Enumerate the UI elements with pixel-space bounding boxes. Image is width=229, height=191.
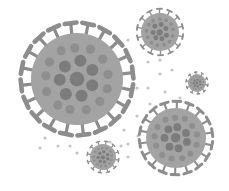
- virus-spot: [199, 76, 201, 78]
- small-right-virus: [186, 72, 208, 94]
- spike-cap: [168, 52, 172, 54]
- spike-cap: [137, 25, 138, 30]
- virus-spot: [65, 105, 74, 114]
- particle-dot: [146, 86, 149, 89]
- spike-cap: [123, 101, 129, 111]
- virus-spot: [106, 153, 109, 156]
- virus-spot: [196, 79, 198, 81]
- virus-spot: [102, 150, 105, 153]
- spike-cap: [159, 171, 166, 174]
- virus-spot: [194, 85, 196, 87]
- virus-spot: [104, 165, 107, 168]
- particle-dot: [38, 146, 41, 149]
- virus-spot: [151, 19, 155, 23]
- virus-spot: [196, 76, 198, 78]
- particle-dot: [163, 90, 166, 93]
- virus-spot: [194, 132, 200, 138]
- virus-spot: [171, 133, 181, 143]
- spike-cap: [186, 103, 193, 106]
- virus-spot: [165, 125, 173, 133]
- virus-spot: [171, 34, 175, 38]
- virus-spot: [150, 41, 154, 45]
- virus-spot: [169, 155, 175, 161]
- virus-spot: [93, 159, 96, 162]
- virus-spot: [97, 148, 100, 151]
- virus-spot: [96, 156, 99, 159]
- virus-spot: [101, 155, 105, 159]
- virus-spot: [45, 57, 54, 66]
- virus-spot: [168, 40, 172, 44]
- spike-cap: [44, 125, 54, 131]
- virus-spot: [199, 83, 201, 85]
- spike-cap: [182, 24, 183, 29]
- virus-spot: [54, 74, 66, 86]
- spike-cap: [143, 116, 147, 123]
- spike-cap: [126, 50, 131, 61]
- virus-spot: [100, 165, 103, 168]
- virus-spot: [98, 152, 101, 155]
- particle-dot: [158, 58, 161, 61]
- virus-spot: [157, 29, 163, 35]
- spike-cap: [87, 160, 88, 163]
- large-virus: [21, 23, 134, 136]
- virus-spot: [183, 138, 191, 146]
- virus-spot: [147, 23, 151, 27]
- virus-spot: [101, 147, 104, 150]
- spike-cap: [21, 62, 23, 74]
- virus-spot: [164, 33, 169, 38]
- virus-spot: [191, 79, 193, 81]
- virus-spot: [95, 97, 104, 106]
- spike-cap: [132, 67, 133, 79]
- virus-spot: [109, 150, 112, 153]
- virus-spot: [202, 81, 204, 83]
- virus-spot: [159, 36, 164, 41]
- virus-spot: [182, 129, 190, 137]
- particle-dot: [158, 72, 161, 75]
- virus-spot: [193, 76, 195, 78]
- virus-spot: [110, 159, 113, 162]
- spike-cap: [95, 128, 106, 133]
- spike-cap: [60, 133, 72, 135]
- spike-cap: [104, 141, 107, 142]
- spike-cap: [182, 34, 183, 39]
- virus-spot: [162, 117, 168, 123]
- virus-spot: [173, 123, 181, 131]
- spike-cap: [87, 152, 88, 155]
- spike-cap: [117, 150, 118, 153]
- virus-spot: [155, 43, 159, 47]
- virus-spot: [197, 85, 199, 87]
- particle-dot: [126, 38, 129, 41]
- spike-cap: [187, 86, 188, 88]
- virus-spot: [59, 61, 71, 73]
- virus-spot: [41, 71, 50, 80]
- virus-spot: [86, 45, 95, 54]
- virus-spot: [202, 84, 204, 86]
- virus-spot: [190, 85, 192, 87]
- virus-spot: [162, 43, 166, 47]
- virus-spot: [60, 88, 72, 100]
- virus-spot: [99, 160, 102, 163]
- virus-spot: [172, 115, 178, 121]
- virus-spot: [110, 154, 113, 157]
- virus-spot: [161, 134, 169, 142]
- bottom-small-virus: [87, 141, 119, 173]
- virus-spot: [145, 29, 149, 33]
- virus-spot: [159, 22, 164, 27]
- spike-cap: [211, 141, 213, 149]
- virus-spot: [96, 163, 99, 166]
- virus-spot: [200, 87, 202, 89]
- virus-spot: [199, 80, 201, 82]
- particle-dot: [108, 140, 111, 143]
- virus-spot: [82, 105, 91, 114]
- top-right-virus: [137, 9, 183, 55]
- particle-dot: [56, 144, 59, 147]
- spike-cap: [167, 10, 172, 12]
- virus-spot: [194, 142, 200, 148]
- spike-cap: [25, 46, 31, 56]
- particle-dot: [68, 144, 71, 147]
- virus-spot: [195, 88, 197, 90]
- spike-cap: [142, 152, 146, 159]
- particle-dot: [75, 151, 78, 154]
- virus-spot: [152, 133, 158, 139]
- virus-spot: [108, 162, 111, 165]
